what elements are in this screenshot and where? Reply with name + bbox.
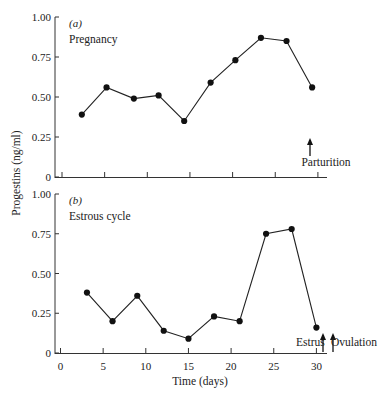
data-point <box>79 112 85 118</box>
data-point <box>258 35 264 41</box>
parturition-label: Parturition <box>301 156 350 168</box>
x-tick-label: 25 <box>268 360 280 372</box>
y-tick-label: 0.50 <box>32 91 52 103</box>
y-tick-label: 0 <box>46 347 52 359</box>
y-axis-title: Progestins (ng/ml) <box>10 130 23 215</box>
panel-title: Pregnancy <box>69 33 118 46</box>
data-point <box>109 318 115 324</box>
ovulation-label: Ovulation <box>331 336 377 348</box>
y-tick-label: 0.75 <box>32 51 52 63</box>
y-tick-label: 0.75 <box>32 228 52 240</box>
data-point <box>232 57 238 63</box>
data-point <box>84 289 90 295</box>
panel-tag: (b) <box>69 194 82 207</box>
x-tick-label: 30 <box>311 360 323 372</box>
y-tick-label: 0 <box>46 171 52 183</box>
data-point <box>155 92 161 98</box>
y-tick-label: 1.00 <box>32 188 52 200</box>
y-tick-label: 0.25 <box>32 307 52 319</box>
data-point <box>181 118 187 124</box>
data-point <box>289 226 295 232</box>
data-line <box>87 229 317 339</box>
y-tick-label: 1.00 <box>32 11 52 23</box>
chart-figure: 00.250.500.751.00(a)PregnancyParturition… <box>0 0 391 397</box>
y-tick-label: 0.25 <box>32 131 52 143</box>
data-point <box>161 328 167 334</box>
panel-estrous-cycle: 00.250.500.751.00051015202530(b)Estrous … <box>32 188 377 372</box>
parturition-arrow-icon-head <box>307 138 313 145</box>
x-tick-label: 0 <box>58 360 64 372</box>
x-axis-title: Time (days) <box>172 375 228 388</box>
y-tick-label: 0.50 <box>32 268 52 280</box>
data-point <box>134 293 140 299</box>
estrus-label: Estrus <box>296 336 325 348</box>
panel-tag: (a) <box>69 17 82 30</box>
panel-pregnancy: 00.250.500.751.00(a)PregnancyParturition <box>32 11 351 183</box>
data-line <box>82 38 312 121</box>
data-point <box>208 80 214 86</box>
panel-title: Estrous cycle <box>69 210 131 223</box>
x-tick-label: 10 <box>140 360 152 372</box>
data-point <box>103 84 109 90</box>
data-point <box>313 324 319 330</box>
data-point <box>263 231 269 237</box>
data-point <box>131 96 137 102</box>
x-tick-label: 5 <box>100 360 106 372</box>
data-point <box>237 318 243 324</box>
data-point <box>283 38 289 44</box>
x-tick-label: 15 <box>183 360 195 372</box>
data-point <box>185 336 191 342</box>
data-point <box>309 84 315 90</box>
x-tick-label: 20 <box>226 360 238 372</box>
data-point <box>211 313 217 319</box>
